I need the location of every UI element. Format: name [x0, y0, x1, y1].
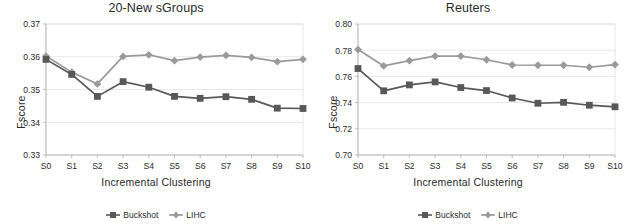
- x-tick-label: S4: [456, 161, 467, 171]
- series-lihc: [354, 46, 619, 71]
- legend-newsgroups: Buckshot LIHC: [0, 210, 312, 220]
- y-tick-label: 0.36: [23, 52, 40, 62]
- x-tick-label: S10: [295, 161, 311, 171]
- square-marker-icon: [106, 211, 120, 219]
- legend-item-lihc-newsgroups: LIHC: [169, 210, 205, 220]
- x-tick-label: S8: [558, 161, 569, 171]
- x-tick-label: S5: [481, 161, 492, 171]
- x-tick-label: S2: [404, 161, 415, 171]
- diamond-marker-icon: [169, 211, 183, 219]
- data-point-diamond-marker: [196, 53, 204, 61]
- data-point-diamond-marker: [406, 57, 414, 65]
- series-buckshot: [355, 65, 619, 110]
- data-point-diamond-marker: [145, 51, 153, 59]
- data-point-square-marker: [171, 93, 178, 100]
- x-tick-label: S3: [430, 161, 441, 171]
- plot-svg-reuters: 0.700.720.740.760.780.80S0S1S2S3S4S5S6S7…: [312, 0, 624, 224]
- data-point-square-marker: [406, 82, 413, 89]
- diamond-marker-icon: [481, 211, 495, 219]
- data-point-diamond-marker: [483, 56, 491, 64]
- x-tick-label: S1: [66, 161, 77, 171]
- chart-panel-newsgroups: 20-New sGroups Fscore 0.330.340.350.360.…: [0, 0, 312, 224]
- x-tick-label: S1: [378, 161, 389, 171]
- x-tick-label: S5: [169, 161, 180, 171]
- data-point-square-marker: [432, 79, 439, 86]
- data-point-square-marker: [535, 100, 542, 107]
- legend-item-buckshot-newsgroups: Buckshot: [106, 210, 158, 220]
- data-point-square-marker: [223, 93, 230, 100]
- data-point-square-marker: [145, 84, 152, 91]
- x-tick-label: S2: [92, 161, 103, 171]
- data-point-diamond-marker: [431, 52, 439, 60]
- data-point-diamond-marker: [611, 61, 619, 69]
- x-tick-label: S8: [246, 161, 257, 171]
- legend-label-buckshot-reuters: Buckshot: [435, 210, 470, 220]
- y-tick-label: 0.76: [335, 72, 352, 82]
- x-tick-label: S4: [144, 161, 155, 171]
- y-tick-label: 0.78: [335, 46, 352, 56]
- x-tick-label: S6: [195, 161, 206, 171]
- data-point-diamond-marker: [273, 58, 281, 66]
- data-point-square-marker: [197, 95, 204, 102]
- y-tick-label: 0.35: [23, 85, 40, 95]
- x-tick-label: S9: [272, 161, 283, 171]
- legend-item-lihc-reuters: LIHC: [481, 210, 517, 220]
- x-tick-label: S7: [221, 161, 232, 171]
- data-point-diamond-marker: [508, 61, 516, 69]
- legend-item-buckshot-reuters: Buckshot: [418, 210, 470, 220]
- data-point-square-marker: [120, 78, 127, 85]
- x-tick-label: S10: [607, 161, 623, 171]
- square-marker-icon: [418, 211, 432, 219]
- data-point-square-marker: [509, 95, 516, 102]
- y-tick-label: 0.72: [335, 124, 352, 134]
- data-point-square-marker: [68, 71, 75, 78]
- x-tick-label: S7: [533, 161, 544, 171]
- x-tick-label: S3: [118, 161, 129, 171]
- legend-label-lihc-newsgroups: LIHC: [186, 210, 205, 220]
- series-line: [46, 59, 303, 108]
- data-point-diamond-marker: [248, 54, 256, 62]
- y-tick-label: 0.34: [23, 118, 40, 128]
- figure-two-line-charts: 20-New sGroups Fscore 0.330.340.350.360.…: [0, 0, 625, 224]
- data-point-square-marker: [380, 87, 387, 94]
- data-point-square-marker: [43, 56, 50, 63]
- data-point-square-marker: [355, 65, 362, 72]
- y-tick-label: 0.70: [335, 150, 352, 160]
- data-point-diamond-marker: [171, 57, 179, 65]
- y-tick-label: 0.80: [335, 19, 352, 29]
- legend-label-buckshot-newsgroups: Buckshot: [123, 210, 158, 220]
- data-point-square-marker: [483, 87, 490, 94]
- data-point-diamond-marker: [222, 52, 230, 60]
- plot-area-newsgroups: 0.330.340.350.360.37S0S1S2S3S4S5S6S7S8S9…: [0, 0, 312, 224]
- y-tick-label: 0.33: [23, 150, 40, 160]
- legend-label-lihc-reuters: LIHC: [498, 210, 517, 220]
- legend-reuters: Buckshot LIHC: [312, 210, 624, 220]
- data-point-square-marker: [300, 105, 307, 112]
- y-tick-label: 0.37: [23, 19, 40, 29]
- chart-panel-reuters: Reuters Fscore 0.700.720.740.760.780.80S…: [312, 0, 624, 224]
- x-axis-label-reuters: Incremental Clustering: [312, 176, 624, 188]
- data-point-square-marker: [274, 105, 281, 112]
- data-point-square-marker: [457, 84, 464, 91]
- data-point-diamond-marker: [560, 61, 568, 69]
- x-tick-label: S9: [584, 161, 595, 171]
- y-tick-label: 0.74: [335, 98, 352, 108]
- data-point-square-marker: [248, 96, 255, 103]
- data-point-square-marker: [612, 103, 619, 110]
- plot-area-reuters: 0.700.720.740.760.780.80S0S1S2S3S4S5S6S7…: [312, 0, 624, 224]
- data-point-square-marker: [94, 93, 101, 100]
- data-point-diamond-marker: [457, 52, 465, 60]
- x-tick-label: S6: [507, 161, 518, 171]
- x-axis-label-newsgroups: Incremental Clustering: [0, 176, 312, 188]
- x-tick-label: S0: [353, 161, 364, 171]
- data-point-diamond-marker: [585, 63, 593, 71]
- plot-svg-newsgroups: 0.330.340.350.360.37S0S1S2S3S4S5S6S7S8S9…: [0, 0, 312, 224]
- data-point-square-marker: [586, 102, 593, 109]
- data-point-diamond-marker: [534, 61, 542, 69]
- data-point-square-marker: [560, 99, 567, 106]
- x-tick-label: S0: [41, 161, 52, 171]
